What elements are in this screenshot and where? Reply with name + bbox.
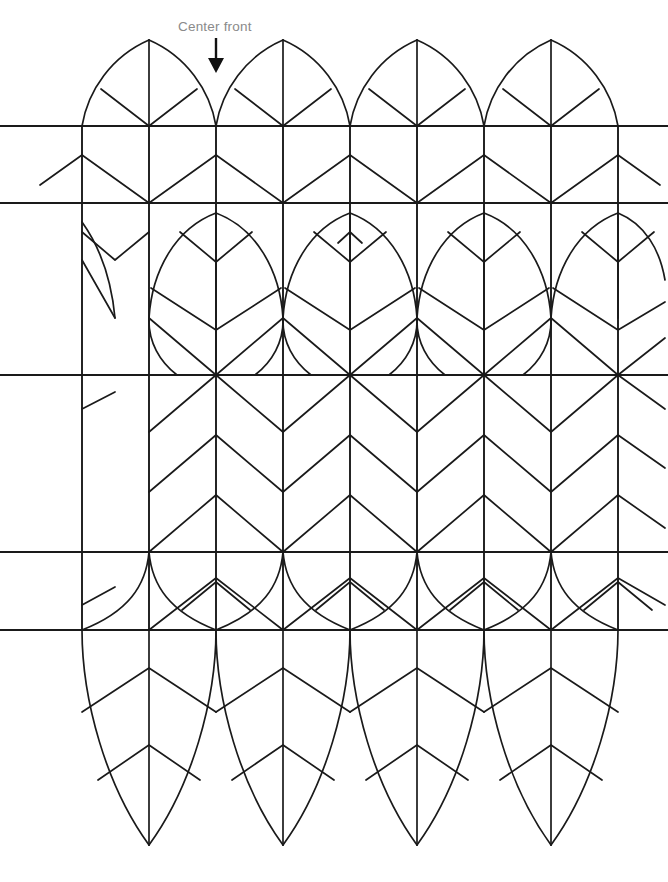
petal-mid-partial [417, 213, 551, 375]
petal-bottom [82, 630, 216, 845]
pattern-diagram-page: Center front [0, 0, 668, 882]
petal-top [484, 40, 618, 126]
chevron-inter-petal [82, 232, 149, 260]
petal-mid [149, 213, 283, 375]
annotation-layer: Center front [178, 19, 252, 73]
petal-top [216, 40, 350, 126]
petal-top [82, 40, 216, 126]
petal-bottom [216, 630, 350, 845]
grid-layer [0, 126, 668, 630]
petal-mid-edge-right [551, 213, 665, 375]
petal-bottom [484, 630, 618, 845]
center-front-arrow-icon [208, 38, 224, 73]
chevron-stack-center [82, 375, 665, 552]
center-front-label: Center front [178, 19, 252, 34]
pattern-drawing: Center front [0, 0, 668, 882]
petal-top [350, 40, 484, 126]
chevron-row-lower [82, 578, 665, 630]
petal-bottom [350, 630, 484, 845]
motif-layer [40, 40, 665, 845]
petal-mid [283, 213, 417, 375]
